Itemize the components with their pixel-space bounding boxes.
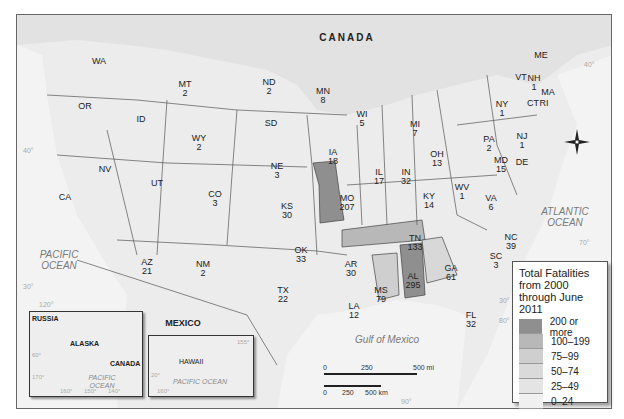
legend-item: 25–49: [519, 379, 601, 394]
legend-item: 50–74: [519, 364, 601, 379]
state-tx: TX22: [277, 286, 289, 304]
state-ia: IA18: [328, 148, 338, 166]
state-pa: PA2: [483, 135, 494, 153]
state-wy: WY2: [192, 134, 207, 152]
legend-item: 100–199: [519, 334, 601, 349]
state-tn: TN133: [407, 234, 422, 252]
state-sc: SC3: [490, 252, 503, 270]
state-va: VA6: [485, 194, 496, 212]
state-me: ME: [534, 51, 548, 60]
state-ok: OK33: [294, 246, 307, 264]
lat-label: 40°: [584, 61, 595, 68]
state-mi: MI7: [410, 120, 420, 138]
state-la: LA12: [348, 302, 359, 320]
state-nh: NH1: [528, 74, 541, 92]
legend-swatch: [519, 334, 543, 349]
lat-label: 30°: [499, 297, 510, 304]
legend-swatch: [519, 379, 543, 394]
state-mo: MO207: [339, 194, 354, 212]
lat-label: 30°: [23, 283, 34, 290]
state-mn: MN8: [316, 87, 330, 105]
state-md: MD15: [494, 156, 508, 174]
state-vt: VT: [515, 73, 527, 82]
lon-label: 90°: [401, 398, 412, 405]
state-ky: KY14: [423, 192, 435, 210]
state-ca: CA: [59, 193, 72, 202]
state-ri: RI: [540, 99, 549, 108]
state-wv: WV1: [455, 183, 470, 201]
state-id: ID: [137, 115, 146, 124]
state-ms: MS79: [374, 286, 388, 304]
legend-swatch: [519, 319, 542, 334]
state-or: OR: [78, 102, 92, 111]
state-ny: NY1: [496, 100, 509, 118]
state-mt: MT2: [179, 80, 192, 98]
legend-swatch: [519, 394, 543, 409]
legend-swatch: [519, 364, 543, 379]
hawaii-inset: HAWAII PACIFIC OCEAN 155° 20° 160°: [148, 335, 254, 397]
legend-title: Total Fatalities from 2000 through June …: [519, 267, 601, 315]
state-nc: NC39: [505, 233, 518, 251]
state-ar: AR30: [345, 260, 358, 278]
label-gulf-of-mexico: Gulf of Mexico: [355, 334, 419, 345]
lon-label: 80°: [499, 317, 510, 324]
state-ma: MA: [541, 88, 555, 97]
state-il: IL17: [374, 168, 384, 186]
state-ga: GA61: [444, 264, 457, 282]
legend-item: 0–24: [519, 394, 601, 409]
state-co: CO3: [208, 190, 222, 208]
alaska-inset: RUSSIA ALASKA CANADA PACIFIC OCEAN 160° …: [29, 311, 143, 397]
state-shape-mo: [313, 161, 344, 223]
state-ct: CT: [527, 99, 539, 108]
state-in: IN32: [401, 168, 411, 186]
label-atlantic-ocean: ATLANTIC OCEAN: [535, 206, 595, 228]
state-ne: NE3: [271, 162, 284, 180]
legend-item: 200 or more: [519, 319, 601, 334]
state-fl: FL32: [466, 311, 477, 329]
lon-label: 70°: [579, 239, 590, 246]
state-nv: NV: [99, 165, 112, 174]
label-canada: CANADA: [319, 32, 374, 43]
state-nj: NJ1: [517, 132, 528, 150]
state-nd: ND2: [263, 78, 276, 96]
state-ks: KS30: [281, 202, 293, 220]
state-wa: WA: [92, 57, 106, 66]
label-pacific-ocean: PACIFIC OCEAN: [34, 249, 84, 271]
state-nm: NM2: [196, 260, 210, 278]
state-az: AZ21: [141, 258, 153, 276]
state-de: DE: [516, 158, 529, 167]
lat-label: 40°: [23, 147, 34, 154]
state-oh: OH13: [430, 150, 444, 168]
state-al: AL295: [405, 272, 420, 290]
compass-rose-icon: [564, 129, 590, 155]
legend-item: 75–99: [519, 349, 601, 364]
state-sd: SD: [265, 119, 278, 128]
label-mexico: MEXICO: [165, 318, 201, 328]
state-ut: UT: [151, 179, 163, 188]
legend-swatch: [519, 349, 543, 364]
state-wi: WI5: [357, 110, 368, 128]
legend: Total Fatalities from 2000 through June …: [512, 261, 608, 403]
